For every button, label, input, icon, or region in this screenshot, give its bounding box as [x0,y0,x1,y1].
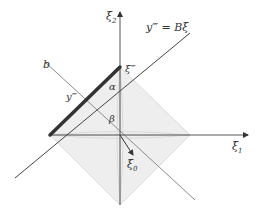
xi2-axis-label: ξ2 [106,10,117,25]
y-triple-prime-label: y‴ [65,91,78,102]
diagram-canvas: ξ2 ξ1 y‴ = Bξ b ξ‴ y‴ α β ξ0 [0,0,257,212]
beta-angle-label: β [108,113,115,124]
image-line-label: y‴ = Bξ [145,21,189,34]
b-line-label: b [43,58,50,71]
alpha-angle-label: α [109,81,116,92]
xi1-axis-label: ξ1 [232,140,243,155]
xi-triple-prime-label: ξ‴ [125,63,137,74]
